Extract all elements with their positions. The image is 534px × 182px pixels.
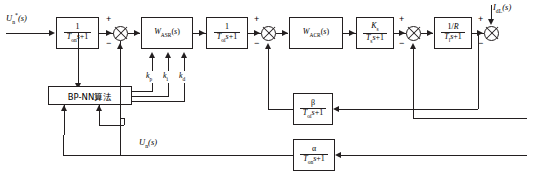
speed-feedback-numerator: α [309,145,319,153]
speed-sum-minus-sign: − [106,38,111,48]
speed-regulator-block: WASR(s) [141,17,193,49]
arrowhead-sum-emf-in [399,30,405,36]
arrowhead-current-filter-in [199,30,205,36]
wire-input [6,33,50,34]
arrowhead-load-disturbance [488,19,494,25]
speed-feedback-denominator: Tons+1 [300,154,328,165]
current-error-summing-junction [261,26,276,41]
speed-feedback-block: α Tons+1 [293,139,335,171]
wire-speed-feedback-riser [120,118,121,155]
wire-bpnn-bottom-2-v2 [124,118,125,125]
arrowhead-bpnn-bottom-2 [96,105,102,111]
load-sum-plus-sign: + [478,14,483,24]
load-disturbance-label: IdL(s) [493,2,511,14]
current-feedback-denominator: Tois+1 [300,108,326,119]
arrowhead-kp-in [149,52,155,58]
arrowhead-converter-in [349,30,355,36]
armature-denominator: Tls+1 [441,32,465,43]
wire-bpnn-ki-h [132,96,169,97]
wire-kp-to-asr [152,58,153,71]
arrowhead-sum-current-in [254,30,260,36]
power-converter-block: Ks Tss+1 [356,17,394,49]
wire-emf-feedback-h [413,118,527,119]
current-filter-block: 1 Tois+1 [206,17,248,49]
wire-bpnn-kd-h [132,101,185,102]
wire-speed-feedback-right [341,155,527,156]
converter-numerator: Ks [368,22,381,32]
converter-denominator: Tss+1 [363,33,387,44]
input-filter-numerator: 1 [73,23,83,31]
gain-kd-label: kd [179,71,185,82]
wire-speed-feedback-left [63,155,293,156]
wire-bpnn-ki-v [168,83,169,96]
load-disturbance-summing-junction [484,26,499,41]
current-regulator-block: WACR(s) [289,17,343,49]
gain-ki-label: ki [163,71,168,82]
back-emf-summing-junction [406,26,421,41]
arrowhead-sum-speed-minus [117,43,123,49]
wire-bpnn-kp-h [132,91,153,92]
arrowhead-bpnn-bottom-1 [61,105,67,111]
arrowhead-asr-in [134,30,140,36]
armature-circuit-block: 1/R Tls+1 [434,17,472,49]
current-feedback-numerator: β [308,99,318,107]
arrowhead-input [49,30,55,36]
armature-numerator: 1/R [444,23,461,31]
arrowhead-acr-in [282,30,288,36]
emf-sum-plus-sign: + [399,14,404,24]
speed-sum-plus-sign: + [106,14,111,24]
current-filter-numerator: 1 [222,23,232,31]
wire-bpnn-kd-v [184,83,185,101]
wire-kd-to-asr [184,58,185,71]
wire-filter-to-bpnn [78,33,79,89]
arrowhead-ki-in [165,52,171,58]
current-filter-denominator: Tois+1 [214,32,240,43]
current-feedback-block: β Tois+1 [293,93,333,125]
current-sum-minus-sign: − [254,38,259,48]
emf-sum-minus-sign: − [399,38,404,48]
wire-error-tap-to-bpnn [120,41,121,118]
asr-label: WASR(s) [151,28,183,38]
wire-load-disturbance [491,5,492,19]
speed-feedback-label: Un(s) [139,137,157,149]
arrowhead-sum-current-minus [265,43,271,49]
wire-current-feedback-right [339,109,478,110]
speed-error-summing-junction [113,26,128,41]
arrowhead-sum-speed-in [106,30,112,36]
arrowhead-kd-in [181,52,187,58]
wire-ki-to-asr [168,58,169,71]
wire-current-feedback-tap [478,33,479,109]
current-sum-plus-sign: + [254,14,259,24]
reference-input-label: Un*(s) [6,12,27,25]
acr-label: WACR(s) [300,28,332,38]
arrowhead-sum-emf-minus [410,43,416,49]
wire-current-feedback-riser [268,49,269,109]
arrowhead-armature-in [427,30,433,36]
wire-speed-feedback-up-bpnn [63,135,64,155]
gain-kp-label: kp [146,71,152,82]
wire-bpnn-kp-v [152,83,153,91]
wire-emf-feedback-riser [413,49,414,118]
wire-current-feedback-out [268,109,293,110]
control-block-diagram: Un*(s) 1 Tons+1 + − WASR(s) kp ki kd [0,0,534,182]
